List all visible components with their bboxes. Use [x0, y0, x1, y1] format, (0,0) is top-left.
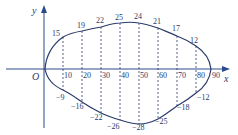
svg-text:−18: −18 — [177, 103, 190, 112]
x-tick-labels: 10 20 30 40 50 60 70 80 90 — [64, 71, 220, 80]
svg-text:80: 80 — [197, 71, 205, 80]
svg-text:10: 10 — [64, 71, 72, 80]
upper-value-labels: 15 19 22 25 24 21 17 12 — [52, 12, 198, 45]
svg-text:40: 40 — [121, 71, 129, 80]
svg-text:−25: −25 — [155, 117, 168, 126]
svg-text:25: 25 — [115, 13, 123, 22]
svg-text:−9: −9 — [56, 93, 65, 102]
svg-text:19: 19 — [77, 21, 85, 30]
svg-text:12: 12 — [190, 36, 198, 45]
svg-text:15: 15 — [52, 29, 60, 38]
svg-text:70: 70 — [178, 71, 186, 80]
origin-label: O — [32, 71, 39, 82]
y-axis-label: y — [31, 5, 37, 16]
svg-text:30: 30 — [102, 71, 110, 80]
svg-text:−12: −12 — [197, 93, 210, 102]
x-axis-label: x — [223, 73, 229, 84]
svg-text:90: 90 — [212, 71, 220, 80]
y-axis-arrow-icon — [41, 5, 47, 13]
svg-text:22: 22 — [96, 16, 104, 25]
svg-text:50: 50 — [140, 71, 148, 80]
svg-text:24: 24 — [134, 12, 142, 21]
svg-text:−22: −22 — [90, 113, 103, 122]
svg-text:17: 17 — [172, 24, 180, 33]
svg-text:−26: −26 — [107, 122, 120, 131]
svg-text:60: 60 — [159, 71, 167, 80]
svg-text:−28: −28 — [132, 123, 145, 132]
svg-text:21: 21 — [153, 17, 161, 26]
svg-text:20: 20 — [83, 71, 91, 80]
lower-value-labels: −9 −16 −22 −26 −28 −25 −18 −12 — [56, 93, 210, 132]
x-axis-arrow-icon — [222, 66, 230, 72]
area-diagram: y x O 10 20 30 40 50 60 70 80 90 15 19 2… — [0, 0, 238, 135]
svg-text:−16: −16 — [71, 102, 84, 111]
